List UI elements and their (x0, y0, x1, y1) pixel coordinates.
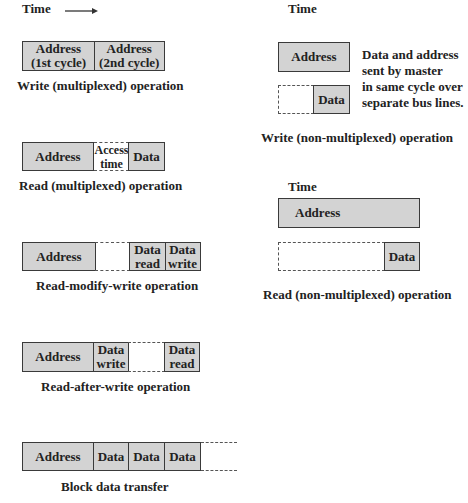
cell-text: (1st cycle) (31, 56, 86, 70)
block-data-transfer-caption: Block data transfer (61, 479, 169, 495)
read-modify-write-caption: Read-modify-write operation (36, 278, 198, 294)
address-2nd-cycle-cell: Address (2nd cycle) (94, 41, 166, 71)
idle-gap (278, 85, 314, 114)
cell-text: Data (98, 343, 125, 357)
note-text: Data and address sent by master in same … (362, 47, 463, 111)
data-cell: Data (93, 442, 129, 471)
cell-text: read (135, 257, 160, 271)
cell-text: read (169, 357, 194, 371)
cell-text: write (168, 257, 197, 271)
read-multiplexed-caption: Read (multiplexed) operation (19, 178, 182, 194)
cell-text: Access (95, 143, 129, 157)
access-time-gap: Access time (94, 142, 129, 171)
wait-gap (95, 242, 130, 271)
cell-text: Data (169, 343, 196, 357)
note-line: separate bus lines. (362, 95, 463, 111)
time-label: Time (288, 1, 317, 17)
address-cell: Address (278, 198, 420, 228)
data-cell: Data (128, 142, 165, 171)
wait-gap (128, 342, 165, 372)
write-non-multiplexed-caption: Write (non-multiplexed) operation (261, 130, 453, 146)
continuation-gap (201, 442, 237, 471)
cell-text: Data (134, 243, 161, 257)
address-cell: Address (278, 42, 350, 72)
read-after-write-caption: Read-after-write operation (41, 379, 190, 395)
data-cell: Data (384, 242, 420, 271)
address-1st-cycle-cell: Address (1st cycle) (22, 41, 95, 71)
data-write-cell: Data write (93, 342, 129, 372)
address-cell: Address (22, 342, 94, 372)
note-line: in same cycle over (362, 79, 463, 95)
note-line: sent by master (362, 63, 463, 79)
idle-gap (278, 242, 385, 271)
time-label: Time (22, 1, 51, 17)
note-line: Data and address (362, 47, 463, 63)
cell-text: time (100, 157, 123, 171)
time-arrow-icon (64, 6, 100, 16)
cell-text: Data (169, 243, 196, 257)
cell-text: Address (36, 42, 81, 56)
read-non-multiplexed-caption: Read (non-multiplexed) operation (263, 287, 452, 303)
address-cell: Address (22, 142, 94, 171)
data-cell: Data (164, 442, 201, 471)
cell-text: write (97, 357, 126, 371)
cell-text: Address (107, 42, 152, 56)
data-cell: Data (313, 85, 350, 114)
data-read-cell: Data read (164, 342, 200, 372)
cell-text: (2nd cycle) (99, 56, 159, 70)
address-cell: Address (22, 242, 96, 271)
address-cell: Address (22, 442, 94, 471)
data-write-cell: Data write (165, 242, 201, 271)
time-label: Time (288, 179, 317, 195)
data-cell: Data (128, 442, 165, 471)
data-read-cell: Data read (129, 242, 166, 271)
write-multiplexed-caption: Write (multiplexed) operation (17, 78, 184, 94)
